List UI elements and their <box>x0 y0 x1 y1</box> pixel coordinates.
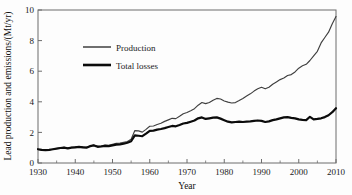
x-axis-ticks <box>38 159 336 163</box>
line-chart: 0246810 19301940195019601970198019902000… <box>0 0 352 195</box>
y-tick-label: 2 <box>30 128 35 138</box>
x-tick-label: 1930 <box>29 167 48 177</box>
x-axis-ticklabels: 193019401950196019701980199020002010 <box>29 167 346 177</box>
y-axis-ticks <box>38 10 42 163</box>
y-tick-label: 6 <box>30 66 35 76</box>
y-tick-label: 10 <box>25 5 35 15</box>
x-tick-label: 1950 <box>104 167 123 177</box>
x-tick-label: 1970 <box>178 167 197 177</box>
legend-label-total-losses: Total losses <box>116 61 159 71</box>
x-tick-label: 1990 <box>253 167 272 177</box>
x-tick-label: 1960 <box>141 167 160 177</box>
x-tick-label: 2000 <box>290 167 309 177</box>
y-tick-label: 4 <box>30 97 35 107</box>
y-tick-label: 8 <box>30 36 35 46</box>
x-tick-label: 1980 <box>215 167 234 177</box>
chart-figure: 0246810 19301940195019601970198019902000… <box>0 0 352 195</box>
legend-label-production: Production <box>116 43 156 53</box>
x-tick-label: 2010 <box>327 167 346 177</box>
x-axis-title: Year <box>178 181 196 191</box>
chart-legend: Production Total losses <box>83 43 159 71</box>
series-line-production <box>38 16 336 150</box>
x-tick-label: 1940 <box>66 167 85 177</box>
y-axis-ticklabels: 0246810 <box>25 5 35 168</box>
y-axis-title: Lead production and emissions/(Mt/yr) <box>3 11 14 160</box>
plot-frame <box>38 10 336 163</box>
series-line-total-losses <box>38 108 336 150</box>
